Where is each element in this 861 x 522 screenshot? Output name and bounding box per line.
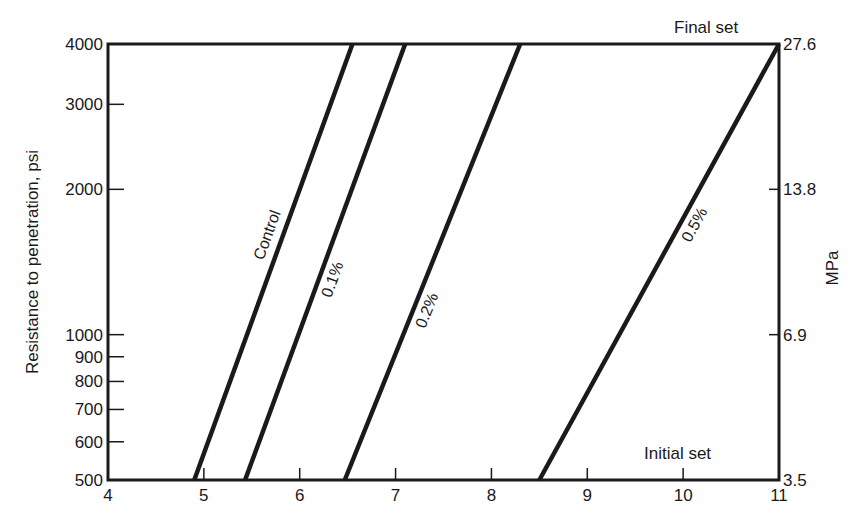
y-right-tick-label: 6.9	[783, 326, 807, 345]
y-tick-label: 600	[75, 433, 103, 452]
series-line	[245, 44, 405, 480]
x-tick-label: 4	[103, 486, 112, 505]
y-tick-label: 700	[75, 400, 103, 419]
axis-ticks: 4567891011500600700800900100020003000400…	[65, 35, 816, 505]
x-tick-label: 9	[583, 486, 592, 505]
y-tick-label: 900	[75, 348, 103, 367]
y-tick-label: 500	[75, 471, 103, 490]
y-axis-title: Resistance to penetration, psi	[23, 150, 42, 374]
y-right-tick-label: 13.8	[783, 180, 816, 199]
y-tick-label: 2000	[65, 180, 103, 199]
y-tick-label: 4000	[65, 35, 103, 54]
y-tick-label: 800	[75, 372, 103, 391]
series-label: 0.5%	[678, 204, 710, 244]
initial-set-annotation: Initial set	[644, 444, 711, 463]
x-tick-label: 5	[199, 486, 208, 505]
y-tick-label: 1000	[65, 326, 103, 345]
y-right-tick-label: 3.5	[783, 471, 807, 490]
plot-border	[108, 44, 779, 480]
x-tick-label: 10	[674, 486, 693, 505]
axes-frame	[108, 44, 779, 480]
y-axis-right-title: MPa	[823, 250, 842, 286]
x-tick-label: 7	[391, 486, 400, 505]
series-labels: Control0.1%0.2%0.5%	[250, 204, 710, 330]
y-right-tick-label: 27.6	[783, 35, 816, 54]
final-set-annotation: Final set	[674, 18, 739, 37]
y-tick-label: 3000	[65, 95, 103, 114]
series-line	[345, 44, 520, 480]
series-lines	[194, 44, 779, 480]
x-tick-label: 6	[295, 486, 304, 505]
x-tick-label: 8	[487, 486, 496, 505]
series-label: Control	[250, 208, 284, 262]
chart-canvas: 4567891011500600700800900100020003000400…	[0, 0, 861, 522]
series-line	[539, 44, 779, 480]
